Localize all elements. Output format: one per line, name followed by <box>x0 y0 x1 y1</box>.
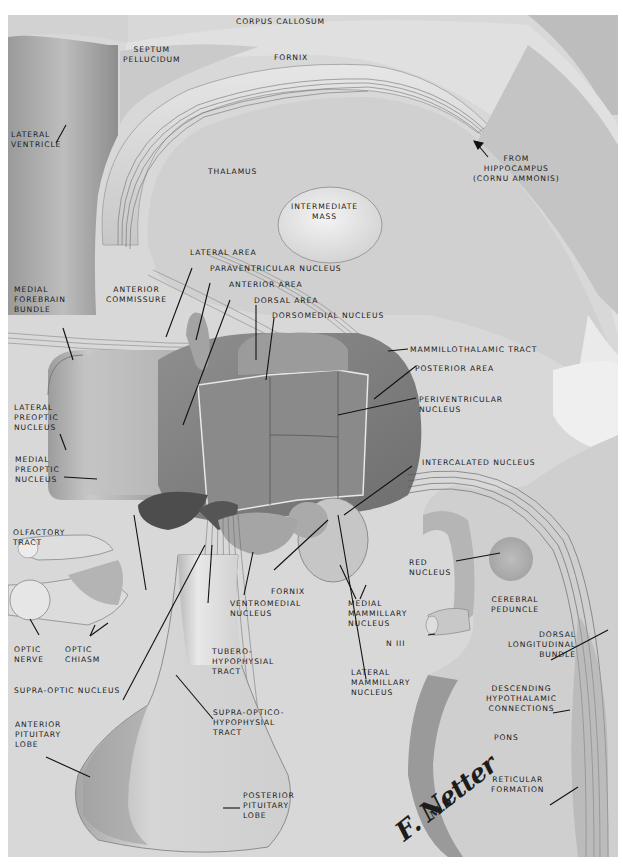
label-from-hippocampus: FROM HIPPOCAMPUS (CORNU AMMONIS) <box>473 154 560 184</box>
hypothalamus-illustration <box>8 15 618 857</box>
label-fornix-top: FORNIX <box>274 53 308 63</box>
label-reticular-formation: RETICULAR FORMATION <box>491 775 544 795</box>
label-tuberohypophysial-tract: TUBERO- HYPOPHYSIAL TRACT <box>212 647 274 677</box>
label-dorsal-longitudinal-bundle: DORSAL LONGITUDINAL BUNDLE <box>508 630 576 660</box>
label-intercalated-nucleus: INTERCALATED NUCLEUS <box>422 458 535 468</box>
label-supra-optic-nucleus: SUPRA-OPTIC NUCLEUS <box>14 686 120 696</box>
label-corpus-callosum: CORPUS CALLOSUM <box>236 17 325 27</box>
label-posterior-area: POSTERIOR AREA <box>415 364 494 374</box>
label-olfactory-tract: OLFACTORY TRACT <box>13 528 65 548</box>
label-supraopticohypophysial-tract: SUPRA-OPTICO- HYPOPHYSIAL TRACT <box>213 708 284 738</box>
label-cerebral-peduncle: CEREBRAL PEDUNCLE <box>491 595 539 615</box>
label-optic-chiasm: OPTIC CHIASM <box>65 645 100 665</box>
label-periventricular-nucleus: PERIVENTRICULAR NUCLEUS <box>419 395 503 415</box>
label-medial-preoptic-nucleus: MEDIAL PREOPTIC NUCLEUS <box>15 455 60 485</box>
label-ventromedial-nucleus: VENTROMEDIAL NUCLEUS <box>230 599 301 619</box>
label-posterior-pituitary-lobe: POSTERIOR PITUITARY LOBE <box>243 791 295 821</box>
label-lateral-mammillary-nucleus: LATERAL MAMMILLARY NUCLEUS <box>351 668 410 698</box>
label-paraventricular-nucleus: PARAVENTRICULAR NUCLEUS <box>210 264 342 274</box>
label-intermediate-mass: INTERMEDIATE MASS <box>291 202 358 222</box>
label-optic-nerve: OPTIC NERVE <box>14 645 44 665</box>
label-dorsomedial-nucleus: DORSOMEDIAL NUCLEUS <box>272 311 384 321</box>
label-dorsal-area: DORSAL AREA <box>254 296 318 306</box>
label-lateral-ventricle: LATERAL VENTRICLE <box>11 130 61 150</box>
label-lateral-preoptic-nucleus: LATERAL PREOPTIC NUCLEUS <box>14 403 59 433</box>
label-medial-forebrain-bundle: MEDIAL FOREBRAIN BUNDLE <box>14 285 66 315</box>
label-anterior-area: ANTERIOR AREA <box>229 280 303 290</box>
label-thalamus: THALAMUS <box>208 167 257 177</box>
label-fornix-bottom: FORNIX <box>271 587 305 597</box>
label-anterior-pituitary-lobe: ANTERIOR PITUITARY LOBE <box>15 720 61 750</box>
label-descending-hypothalamic-connections: DESCENDING HYPOTHALAMIC CONNECTIONS <box>486 684 557 714</box>
label-mammillothalamic-tract: MAMMILLOTHALAMIC TRACT <box>410 345 537 355</box>
label-n-iii: N III <box>386 639 405 649</box>
label-red-nucleus: RED NUCLEUS <box>409 558 451 578</box>
label-pons: PONS <box>494 733 519 743</box>
label-septum-pellucidum: SEPTUM PELLUCIDUM <box>123 45 181 65</box>
anatomical-plate: CORPUS CALLOSUM SEPTUM PELLUCIDUM FORNIX… <box>8 15 618 857</box>
label-anterior-commissure: ANTERIOR COMMISSURE <box>106 285 167 305</box>
label-medial-mammillary-nucleus: MEDIAL MAMMILLARY NUCLEUS <box>348 599 407 629</box>
label-lateral-area: LATERAL AREA <box>190 248 257 258</box>
